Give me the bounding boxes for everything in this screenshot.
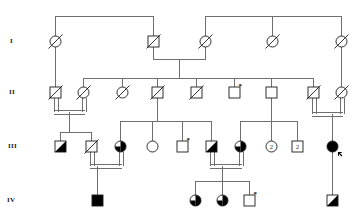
individual-iii-2[interactable] (83, 138, 100, 155)
individual-ii-7[interactable] (263, 84, 280, 101)
descent-line-gen3-left (69, 112, 70, 132)
consang-line-III-2-III-3 (90, 164, 122, 169)
descent-line-IV-5 (332, 152, 333, 195)
individual-iii-6[interactable] (203, 138, 220, 155)
sibship-bar-gen1-left (55, 16, 154, 17)
svg-text:2: 2 (270, 143, 273, 149)
individual-iii-4[interactable] (144, 138, 161, 155)
individual-i-4[interactable] (264, 33, 281, 50)
examined-asterisk-icon: * (254, 191, 258, 198)
individual-iv-3[interactable] (214, 192, 231, 209)
svg-text:2: 2 (296, 143, 299, 149)
consang-line-II-8-II-9 (312, 112, 343, 117)
individual-i-2[interactable] (145, 33, 162, 50)
individual-i-3[interactable] (197, 33, 214, 50)
sibship-bar-gen3-left (60, 132, 92, 133)
sibship-bar-gen3-right (240, 121, 297, 122)
generation-label-2: II (9, 89, 15, 96)
individual-ii-9[interactable] (333, 84, 350, 101)
individual-ii-5[interactable] (188, 84, 205, 101)
sibship-bar-gen3-mid (120, 121, 211, 122)
individual-iv-1[interactable] (89, 192, 106, 209)
individual-ii-2[interactable] (75, 84, 92, 101)
individual-iv-4[interactable]: * (241, 192, 258, 209)
descent-line-I-5 (341, 47, 342, 87)
individual-i-1[interactable] (47, 33, 64, 50)
individual-ii-3[interactable] (114, 84, 131, 101)
individual-iii-1[interactable] (52, 138, 69, 155)
descent-line-II-7 (271, 98, 272, 121)
descent-line-gen4-mid (222, 166, 223, 181)
individual-iii-10[interactable] (324, 138, 341, 155)
individual-iv-5[interactable] (324, 192, 341, 209)
individual-iv-2[interactable] (187, 192, 204, 209)
individual-iii-7[interactable] (232, 138, 249, 155)
individual-ii-8[interactable] (305, 84, 322, 101)
individual-i-5[interactable] (333, 33, 350, 50)
descent-line-II-4 (157, 98, 158, 121)
generation-label-4: IV (7, 197, 15, 204)
examined-asterisk-icon: * (239, 83, 243, 90)
generation-label-1: I (10, 38, 13, 45)
individual-iii-9[interactable]: 2 (289, 138, 306, 155)
pedigree-chart: I II III IV (0, 0, 361, 222)
descent-line-gen2 (179, 59, 180, 78)
individual-ii-4[interactable] (149, 84, 166, 101)
sibship-bar-gen2 (83, 78, 313, 79)
individual-ii-6[interactable]: * (226, 84, 243, 101)
individual-iii-5[interactable]: * (174, 138, 191, 155)
individual-iii-8[interactable]: 2 (263, 138, 280, 155)
descent-line-I-1 (55, 47, 56, 87)
sibship-bar-gen1-right (205, 16, 341, 17)
individual-ii-1[interactable] (47, 84, 64, 101)
individual-iii-3[interactable] (112, 138, 129, 155)
consang-line-III-6-III-7 (210, 164, 242, 169)
generation-label-3: III (8, 143, 17, 150)
examined-asterisk-icon: * (187, 137, 191, 144)
